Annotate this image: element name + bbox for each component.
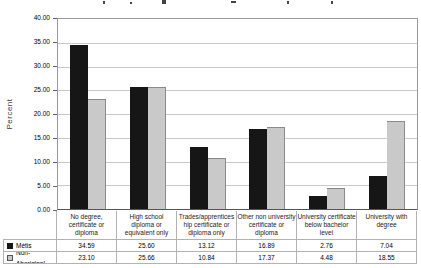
plot-area (57, 18, 418, 210)
table-corner-cell (3, 211, 57, 240)
y-axis-tick-label: 10.00 (14, 158, 50, 166)
y-axis-tick-label: 20.00 (14, 110, 50, 118)
value-cell: 2.76 (297, 240, 357, 252)
value-cell: 16.89 (237, 240, 297, 252)
bar-m-tis (369, 176, 387, 209)
y-axis-tick-label: 5.00 (14, 182, 50, 190)
value-cell: 18.55 (357, 252, 417, 264)
category-header-cell: High schooldiploma orequivalent only (117, 211, 177, 240)
y-axis-tick-label: 40.00 (14, 14, 50, 22)
bar-m-tis (130, 87, 148, 209)
gridline (58, 90, 417, 91)
y-axis-tick-label: 25.00 (14, 86, 50, 94)
bar-m-tis (249, 129, 267, 209)
value-cell: 17.37 (237, 252, 297, 264)
category-header-cell: University certificatebelow bachelorleve… (297, 211, 357, 240)
category-header-cell: Other non universitycertificate ordiplom… (237, 211, 297, 240)
category-header-cell: University withdegree (357, 211, 417, 240)
value-cell: 25.66 (117, 252, 177, 264)
legend-swatch-m-tis (7, 243, 13, 249)
bar-non-aboriginal (148, 87, 166, 209)
y-axis-tick-label: 35.00 (14, 38, 50, 46)
gridline (58, 114, 417, 115)
gridline (58, 138, 417, 139)
legend-label: Métis (16, 240, 32, 251)
bar-non-aboriginal (267, 127, 285, 210)
value-cell: 7.04 (357, 240, 417, 252)
value-cell: 13.12 (177, 240, 237, 252)
bar-non-aboriginal (88, 99, 106, 209)
chart: Percent 0.005.0010.0015.0020.0025.0030.0… (0, 0, 421, 268)
gridline (58, 43, 417, 44)
gridline (58, 185, 417, 186)
gridline (58, 162, 417, 163)
bar-non-aboriginal (208, 158, 226, 209)
legend-swatch-non-aboriginal (7, 255, 13, 261)
category-header-cell: No degree,certificate ordiploma (57, 211, 117, 240)
legend-cell: Métis (3, 240, 57, 252)
value-cell: 10.84 (177, 252, 237, 264)
value-cell: 23.10 (57, 252, 117, 264)
legend-label: Non-Aboriginal (16, 252, 56, 264)
data-table: No degree,certificate ordiplomaHigh scho… (3, 211, 417, 264)
y-axis-tick-label: 15.00 (14, 134, 50, 142)
y-axis-tick-label: 30.00 (14, 62, 50, 70)
value-cell: 25.60 (117, 240, 177, 252)
category-header-cell: Trades/apprenticeship certificate ordipl… (177, 211, 237, 240)
bar-m-tis (309, 196, 327, 209)
bar-m-tis (70, 45, 88, 209)
bar-non-aboriginal (327, 188, 345, 209)
legend-cell: Non-Aboriginal (3, 252, 57, 264)
gridline (58, 67, 417, 68)
value-cell: 34.59 (57, 240, 117, 252)
value-cell: 4.48 (297, 252, 357, 264)
bar-m-tis (190, 147, 208, 209)
bar-non-aboriginal (387, 121, 405, 209)
